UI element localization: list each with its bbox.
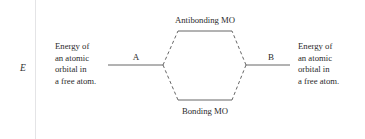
correlation-line-a-antibonding: [163, 31, 178, 65]
correlation-line-a-bonding: [163, 65, 178, 100]
correlation-line-b-bonding: [232, 65, 246, 100]
mo-diagram-lines: [0, 0, 365, 139]
correlation-line-b-antibonding: [232, 31, 246, 65]
mo-energy-diagram-figure: E Energy of an atomic orbital in a free …: [0, 0, 365, 139]
